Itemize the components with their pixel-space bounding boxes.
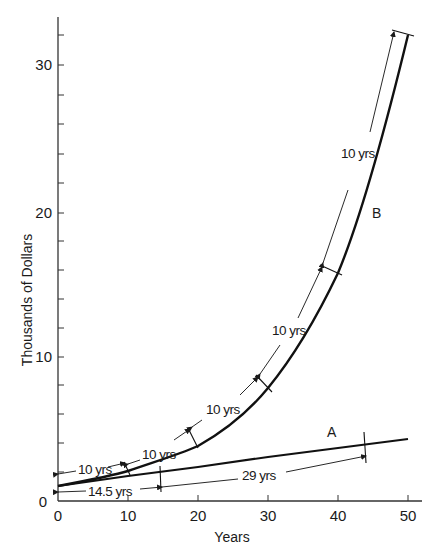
series-b-markers [124,30,414,475]
annotation-a-0-14.5: 14.5 yrs [88,484,133,499]
annotation-a-14.5-43.5: 29 yrs [242,468,277,483]
y-tick-label-30: 30 [35,56,52,73]
axes [58,17,422,501]
x-tick-label-0: 0 [54,507,62,524]
series-b-label: B [372,205,381,221]
x-axis-title: Years [214,529,249,545]
x-tick-label-10: 10 [120,507,137,524]
x-tick-label-20: 20 [190,507,207,524]
annotation-b-20-30: 10 yrs [206,402,241,417]
y-tick-label-0: 0 [39,493,47,510]
series-a-label: A [327,424,337,440]
x-tick-label-30: 30 [260,507,277,524]
annotation-b-30-40: 10 yrs [272,323,307,338]
y-ticks [58,35,64,472]
x-tick-label-50: 50 [400,507,417,524]
annotation-b-10-20: 10 yrs [142,447,177,462]
y-tick-label-10: 10 [35,348,52,365]
y-tick-label-20: 20 [35,204,52,221]
series-b-curve [58,35,408,486]
chart: 0 10 20 30 0 10 20 30 40 50 Years Thousa… [0,0,438,556]
x-ticks [128,495,408,501]
annotation-b-0-10: 10 yrs [78,462,113,477]
annotation-b-40-50: 10 yrs [341,146,376,161]
x-tick-label-40: 40 [330,507,347,524]
y-axis-title: Thousands of Dollars [19,234,35,366]
